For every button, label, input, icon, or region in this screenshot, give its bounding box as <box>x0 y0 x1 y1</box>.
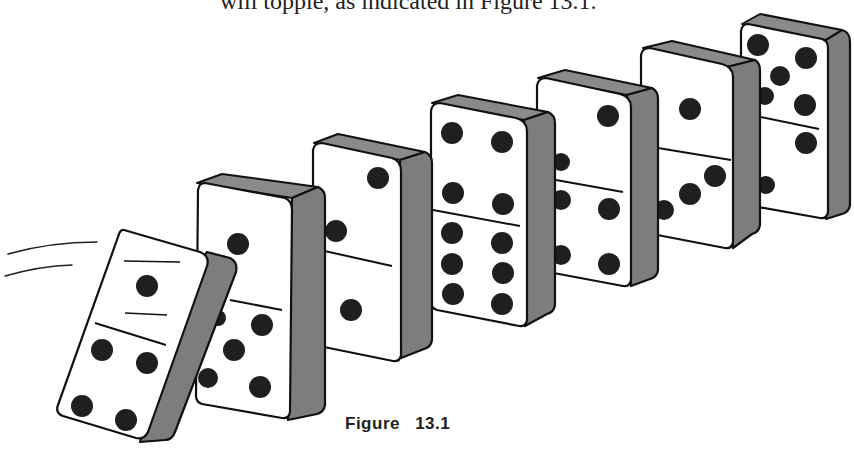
domino-1-falling <box>57 230 236 442</box>
figure-caption: Figure 13.1 <box>345 414 450 434</box>
domino-figure: .face { fill: #ffffff; stroke: #111; str… <box>0 0 854 450</box>
motion-lines <box>5 242 97 276</box>
domino-4 <box>431 95 555 326</box>
domino-3 <box>313 134 432 361</box>
